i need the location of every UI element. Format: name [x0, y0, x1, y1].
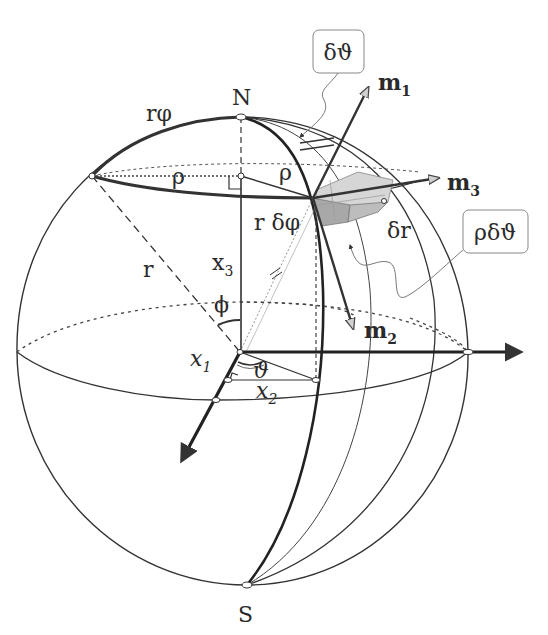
callout-rho-delta-theta: ρδϑ	[350, 210, 528, 297]
label-x1: x1	[190, 346, 211, 375]
label-delta-r: δr	[387, 218, 411, 243]
spherical-coordinates-diagram: δϑ ρδϑ N S rφ ρ ρ r δφ δr x3 r ϕ x1 ϑ x2…	[0, 0, 548, 635]
callout-rho-delta-theta-text: ρδϑ	[474, 220, 516, 245]
label-x3: x3	[212, 250, 233, 279]
label-radius: r	[143, 257, 154, 282]
label-m3: m3	[447, 169, 480, 199]
label-r-phi: rφ	[146, 101, 172, 126]
callout-delta-theta: δϑ	[300, 30, 364, 137]
labels: N S rφ ρ ρ r δφ δr x3 r ϕ x1 ϑ x2 m1 m2 …	[143, 69, 480, 627]
label-rho-left: ρ	[172, 164, 185, 189]
label-rho-right: ρ	[279, 160, 292, 185]
construction-lines	[92, 117, 468, 380]
label-north: N	[232, 85, 251, 110]
label-phi: ϕ	[214, 292, 229, 317]
label-r-delta-phi: r δφ	[254, 210, 300, 235]
label-x2: x2	[256, 378, 277, 407]
label-m1: m1	[378, 69, 411, 99]
label-south: S	[238, 602, 253, 627]
label-m2: m2	[364, 317, 397, 347]
callout-delta-theta-text: δϑ	[324, 40, 353, 65]
volume-element	[312, 172, 393, 226]
